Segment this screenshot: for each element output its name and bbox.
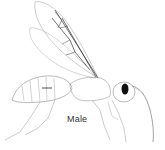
figure-caption: Male xyxy=(67,114,87,124)
wasp-illustration xyxy=(0,0,165,150)
